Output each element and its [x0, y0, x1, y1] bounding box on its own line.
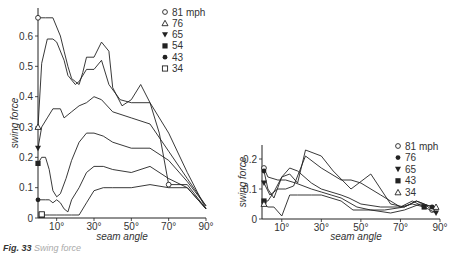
y-tick-label: 0.1	[19, 182, 33, 193]
legend-marker-icon	[162, 43, 167, 48]
x-tick-label: 90°	[432, 222, 447, 233]
figure-caption: Fig. 33 Swing force	[3, 243, 81, 253]
legend-marker-icon	[162, 20, 168, 25]
data-marker-icon	[166, 182, 171, 187]
series-line-43	[264, 168, 424, 207]
y-axis-label: swing force	[9, 97, 20, 148]
series-line-43	[38, 166, 206, 212]
legend-entry: 76	[405, 152, 417, 163]
x-axis-label: seam angle	[330, 231, 382, 242]
legend-marker-icon	[396, 155, 401, 160]
legend-marker-icon	[162, 66, 167, 71]
legend-entry: 34	[172, 63, 184, 74]
legend-marker-icon	[163, 55, 168, 60]
right-chart: 00.10.210°30°50°70°90°seam angleswing fo…	[237, 141, 448, 243]
legend-entry: 65	[172, 29, 184, 40]
legend-marker-icon	[395, 178, 400, 183]
data-marker-icon	[36, 15, 41, 20]
x-tick-label: 10°	[274, 222, 289, 233]
legend-entry: 54	[172, 40, 184, 51]
data-marker-icon	[39, 212, 44, 217]
legend-entry: 81 mph	[172, 7, 205, 18]
legend-entry: 34	[405, 187, 417, 198]
x-tick-label: 90°	[198, 221, 213, 232]
legend-marker-icon	[395, 167, 401, 172]
figure-caption-text: Swing force	[34, 243, 81, 253]
y-tick-label: 0	[27, 213, 33, 224]
legend-entry: 43	[172, 52, 184, 63]
x-axis-label: seam angle	[96, 231, 148, 242]
x-tick-label: 70°	[393, 222, 408, 233]
legend-marker-icon	[162, 32, 168, 37]
y-axis-label: swing force	[237, 156, 248, 207]
legend-entry: 76	[172, 18, 184, 29]
legend-marker-icon	[396, 144, 401, 149]
y-tick-label: 0	[251, 214, 257, 225]
y-tick-label: 0.4	[19, 91, 33, 102]
y-tick-label: 0.3	[19, 122, 33, 133]
data-marker-icon	[35, 146, 41, 151]
data-marker-icon	[36, 197, 41, 202]
data-marker-icon	[35, 161, 40, 166]
y-tick-label: 0.5	[19, 61, 33, 72]
legend-entry: 81 mph	[405, 141, 438, 152]
data-marker-icon	[262, 169, 267, 174]
y-tick-label: 0.6	[19, 31, 33, 42]
series-line-65	[38, 97, 206, 206]
legend-marker-icon	[163, 10, 168, 15]
data-marker-icon	[433, 211, 439, 216]
x-tick-label: 10°	[49, 221, 64, 232]
x-tick-label: 70°	[161, 221, 176, 232]
legend-entry: 65	[405, 164, 417, 175]
y-tick-label: 0.2	[19, 152, 33, 163]
left-chart: 00.10.20.30.40.50.610°30°50°70°90°seam a…	[9, 7, 214, 243]
legend-entry: 43	[405, 175, 417, 186]
figure-caption-label: Fig. 33	[3, 243, 32, 253]
x-tick-label: 30°	[314, 222, 329, 233]
legend-marker-icon	[395, 189, 401, 194]
